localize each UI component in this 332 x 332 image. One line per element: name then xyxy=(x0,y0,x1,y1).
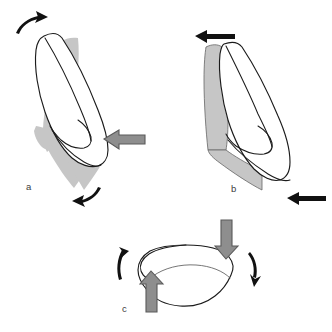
tooth-movement-figure: a b xyxy=(0,0,332,332)
force-arrow-crown-a xyxy=(104,130,145,149)
panel-label-b: b xyxy=(231,183,236,194)
motion-arrow-bottom-a xyxy=(72,187,101,207)
panel-label-a: a xyxy=(26,181,32,192)
motion-arrow-top-b xyxy=(195,30,235,43)
figure-container: a b xyxy=(0,0,332,332)
motion-arrow-left-c xyxy=(117,247,129,280)
panel-c: c xyxy=(117,220,261,314)
motion-arrow-right-c xyxy=(248,252,261,287)
motion-arrow-bottom-b xyxy=(287,192,326,205)
panel-a: a xyxy=(16,11,145,207)
panel-label-c: c xyxy=(122,303,127,314)
motion-arrow-top-a xyxy=(16,11,48,34)
panel-b: b xyxy=(195,30,326,205)
